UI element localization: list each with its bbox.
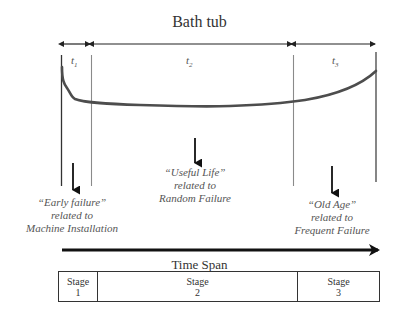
phase-label-t1: t1: [71, 54, 78, 69]
stage-cell-2: Stage 2: [97, 272, 297, 301]
stage-table: Stage 1 Stage 2 Stage 3: [58, 271, 380, 302]
phase-label-t3: t3: [332, 54, 339, 69]
diagram-title: Bath tub: [0, 13, 399, 31]
phase-label-t2: t2: [186, 54, 193, 69]
early-failure-note: “Early failure” related to Machine Insta…: [2, 196, 142, 235]
old-age-note: “Old Age” related to Frequent Failure: [272, 198, 392, 237]
useful-life-note: “Useful Life” related to Random Failure: [135, 166, 255, 205]
failure-rate-curve: [62, 67, 376, 106]
stage-cell-3: Stage 3: [297, 272, 379, 301]
stage-cell-1: Stage 1: [59, 272, 97, 301]
